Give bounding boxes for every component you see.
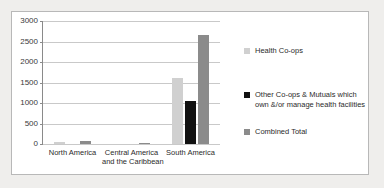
category-label-line: Central America: [102, 148, 161, 157]
y-tick-label-1500: 1500: [20, 79, 38, 87]
bar-group: [161, 21, 220, 144]
bar: [80, 141, 91, 144]
category-label-line: and the Caribbean: [102, 157, 161, 166]
y-tick-label-0: 0: [34, 140, 38, 148]
legend-label: Combined Total: [255, 127, 366, 137]
bar: [185, 101, 196, 144]
legend-item[interactable]: Combined Total: [244, 127, 366, 137]
x-axis-category-label: Central Americaand the Caribbean: [102, 148, 161, 166]
legend-swatch-icon: [244, 129, 250, 135]
legend-label: Health Co-ops: [255, 46, 366, 56]
y-tick-label-3000: 3000: [20, 17, 38, 25]
plot-canvas: 050010001500200025003000: [43, 21, 220, 144]
bar: [198, 35, 209, 144]
legend-swatch-icon: [244, 92, 250, 98]
bar-group: [102, 21, 161, 144]
bar: [54, 142, 65, 144]
chart-legend: Health Co-opsOther Co-ops & Mutuals whic…: [236, 12, 368, 176]
bar: [172, 78, 183, 144]
y-tick-label-2000: 2000: [20, 58, 38, 66]
category-label-line: South America: [161, 148, 220, 157]
legend-item[interactable]: Other Co-ops & Mutuals which own &/or ma…: [244, 90, 366, 109]
y-tick-label-1000: 1000: [20, 99, 38, 107]
bar-series-container: [43, 21, 220, 144]
legend-label: Other Co-ops & Mutuals which own &/or ma…: [255, 90, 366, 109]
legend-swatch-icon: [244, 48, 250, 54]
category-label-line: North America: [43, 148, 102, 157]
y-tick-label-2500: 2500: [20, 38, 38, 46]
y-tick-mark-0: [40, 144, 43, 145]
x-axis-category-label: South America: [161, 148, 220, 157]
bar: [139, 143, 150, 144]
bar-group: [43, 21, 102, 144]
gridline-0: [43, 144, 220, 145]
chart-frame: 050010001500200025003000 North AmericaCe…: [11, 11, 369, 175]
legend-item[interactable]: Health Co-ops: [244, 46, 366, 56]
x-axis-category-label: North America: [43, 148, 102, 157]
plot-area: 050010001500200025003000 North AmericaCe…: [12, 12, 252, 176]
y-tick-label-500: 500: [25, 120, 38, 128]
